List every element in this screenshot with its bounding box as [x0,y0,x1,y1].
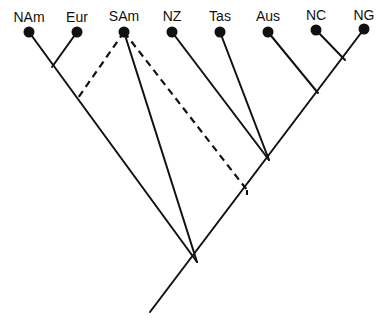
branch-line [220,32,269,160]
taxon-node-dot-icon [119,27,130,38]
taxon-label-aus: Aus [256,9,280,23]
taxon-label-nam: NAm [13,10,44,24]
branch-line [172,32,269,160]
taxon-nodes [24,24,370,38]
taxon-node-dot-icon [263,27,274,38]
taxon-node-dot-icon [215,27,226,38]
taxon-label-nc: NC [306,8,326,22]
taxon-label-tas: Tas [209,9,231,23]
taxon-node-dot-icon [72,27,83,38]
branch-line [268,32,318,93]
taxon-node-dot-icon [167,27,178,38]
taxon-label-nz: NZ [163,9,182,23]
taxon-label-ng: NG [354,8,375,22]
taxon-label-eur: Eur [66,10,88,24]
dashed-branch-line [78,32,124,98]
branch-line [124,32,197,262]
taxon-node-dot-icon [359,24,370,35]
cladogram [0,0,385,321]
taxon-node-dot-icon [311,25,322,36]
taxon-label-sam: SAm [109,9,139,23]
taxon-node-dot-icon [24,27,35,38]
solid-branches [29,29,364,312]
dashed-branches [78,32,247,190]
branch-line [150,29,364,312]
branch-line [52,32,77,67]
branch-line [316,30,345,60]
branch-line [29,32,197,262]
